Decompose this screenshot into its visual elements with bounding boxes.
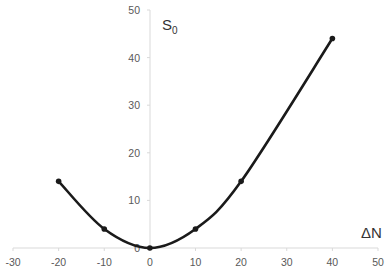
x-tick-label: -30 [5,256,20,268]
x-axis-title: ΔN [361,224,382,241]
chart: -30-20-1001020304050 01020304050 S0 ΔN [0,0,388,272]
data-markers [56,36,335,251]
x-tick-label: 30 [281,256,293,268]
data-point-marker [101,226,107,232]
y-tick-label: 40 [128,52,140,64]
y-tick-label: 10 [128,194,140,206]
x-tick-labels: -30-20-1001020304050 [5,248,384,268]
data-point-marker [56,179,62,185]
y-tick-label: 50 [128,4,140,16]
data-point-marker [193,226,199,232]
data-point-marker [147,245,153,251]
y-tick-label: 20 [128,147,140,159]
x-tick-label: 50 [372,256,384,268]
x-tick-label: 40 [327,256,339,268]
x-tick-label: 10 [190,256,202,268]
x-tick-label: 20 [235,256,247,268]
data-point-marker [330,36,336,42]
data-point-marker [238,179,244,185]
y-tick-label: 30 [128,99,140,111]
x-tick-label: -10 [97,256,112,268]
y-tick-labels: 01020304050 [128,4,150,254]
x-tick-label: 0 [147,256,153,268]
axes [13,10,378,248]
x-tick-label: -20 [51,256,66,268]
y-axis-title: S0 [162,16,178,36]
series-curve [59,39,333,248]
